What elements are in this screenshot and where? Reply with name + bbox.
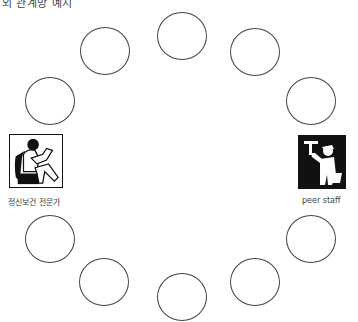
network-node-upper-left-2 (25, 77, 75, 125)
network-node-upper-right-2 (286, 77, 336, 125)
network-node-upper-right-1 (230, 28, 280, 76)
worker-icon (298, 135, 346, 189)
peer-staff-label: peer staff (302, 196, 340, 205)
diagram-caption: 외 관계망 예시 (2, 0, 73, 10)
mental-health-professional-icon (9, 134, 63, 188)
network-node-lower-left-2 (25, 215, 75, 263)
mental-health-professional-label: 정신보건 전문가 (8, 196, 60, 207)
network-node-lower-right-1 (230, 258, 280, 306)
network-node-lower-left-1 (79, 258, 129, 306)
network-node-bottom (157, 273, 207, 321)
network-node-lower-right-2 (286, 215, 336, 263)
network-node-upper-left-1 (80, 27, 130, 75)
network-node-top (157, 12, 207, 60)
